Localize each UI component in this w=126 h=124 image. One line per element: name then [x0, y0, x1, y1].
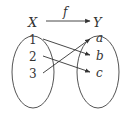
domain-element-3: 3: [29, 67, 37, 81]
mapping-arrow-2-to-c: [43, 56, 90, 72]
codomain-element-a: a: [96, 31, 103, 45]
domain-element-1: 1: [29, 33, 37, 47]
domain-label: X: [27, 15, 38, 30]
mapping-diagram: X Y f 1 2 3 a b c: [0, 0, 126, 124]
function-label: f: [62, 5, 70, 19]
codomain-element-b: b: [96, 49, 104, 63]
codomain-label: Y: [93, 15, 103, 30]
domain-element-2: 2: [29, 50, 37, 64]
codomain-element-c: c: [96, 66, 103, 80]
mapping-arrow-3-to-a: [43, 39, 90, 73]
